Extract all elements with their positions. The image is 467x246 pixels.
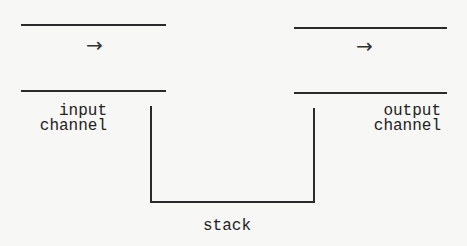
stack-right-wall: [313, 108, 315, 203]
output-channel-bottom-line: [294, 92, 447, 94]
input-channel-label-line2: channel: [10, 119, 107, 134]
stack-left-wall: [150, 106, 152, 203]
output-arrow-icon: →: [356, 36, 373, 56]
stack-bottom: [150, 201, 315, 203]
input-channel-bottom-line: [21, 90, 166, 92]
input-arrow-icon: →: [86, 35, 103, 55]
input-channel-label: input channel: [10, 104, 107, 134]
stack-label: stack: [203, 219, 251, 234]
output-channel-label: output channel: [340, 104, 441, 134]
input-channel-top-line: [21, 24, 166, 26]
output-channel-top-line: [294, 27, 447, 29]
output-channel-label-line2: channel: [340, 119, 441, 134]
